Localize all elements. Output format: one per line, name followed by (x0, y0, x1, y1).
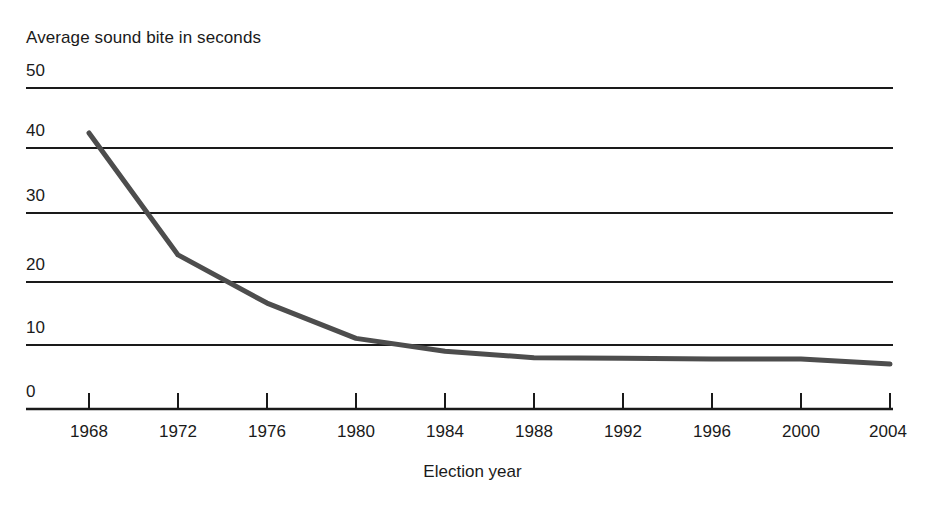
x-tick-label-1984: 1984 (426, 423, 464, 440)
x-tick-label-1972: 1972 (159, 423, 197, 440)
x-tick-label-1992: 1992 (604, 423, 642, 440)
y-tick-label-30: 30 (26, 187, 45, 204)
x-tick-label-1996: 1996 (693, 423, 731, 440)
x-axis-title: Election year (0, 462, 945, 482)
chart-page: Average sound bite in seconds (0, 0, 945, 508)
y-tick-label-10: 10 (26, 319, 45, 336)
x-tick-label-1976: 1976 (248, 423, 286, 440)
y-tick-label-0: 0 (26, 383, 35, 400)
gridlines (26, 88, 893, 345)
x-tick-label-2000: 2000 (782, 423, 820, 440)
x-tick-label-1968: 1968 (70, 423, 108, 440)
y-tick-label-40: 40 (26, 122, 45, 139)
x-tick-label-2004: 2004 (869, 423, 907, 440)
y-tick-label-50: 50 (26, 62, 45, 79)
x-tick-label-1980: 1980 (337, 423, 375, 440)
data-line-average-sound-bite (89, 133, 890, 364)
y-tick-label-20: 20 (26, 256, 45, 273)
x-axis-ticks (89, 393, 890, 409)
x-tick-label-1988: 1988 (515, 423, 553, 440)
